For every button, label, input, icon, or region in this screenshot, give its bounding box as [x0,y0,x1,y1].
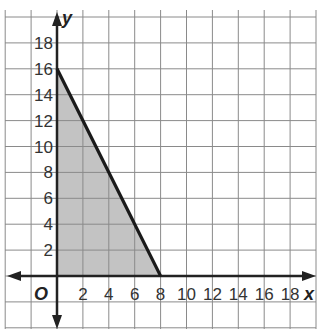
graph: 2468101214161824681012141618xyO [0,0,325,334]
x-axis-left-arrow-icon [7,271,21,281]
y-tick-label: 18 [34,34,53,53]
x-tick-label: 4 [104,285,113,304]
y-tick-label: 12 [34,112,53,131]
y-tick-label: 2 [44,241,53,260]
y-tick-label: 16 [34,60,53,79]
y-axis-down-arrow-icon [52,315,62,329]
y-tick-label: 8 [44,163,53,182]
y-axis-up-arrow-icon [52,12,62,26]
x-tick-label: 8 [156,285,165,304]
x-tick-label: 18 [281,285,300,304]
x-axis-right-arrow-icon [302,271,316,281]
coordinate-plane: 2468101214161824681012141618xyO [0,0,325,334]
x-axis-label: x [303,284,315,304]
x-tick-label: 6 [130,285,139,304]
y-tick-label: 10 [34,138,53,157]
y-tick-label: 6 [44,189,53,208]
x-tick-label: 10 [177,285,196,304]
y-axis-label: y [61,8,73,28]
origin-label: O [34,284,48,304]
y-tick-label: 4 [44,215,53,234]
x-tick-label: 2 [78,285,87,304]
x-tick-label: 12 [203,285,222,304]
x-tick-label: 14 [229,285,248,304]
x-tick-label: 16 [255,285,274,304]
y-tick-label: 14 [34,86,53,105]
